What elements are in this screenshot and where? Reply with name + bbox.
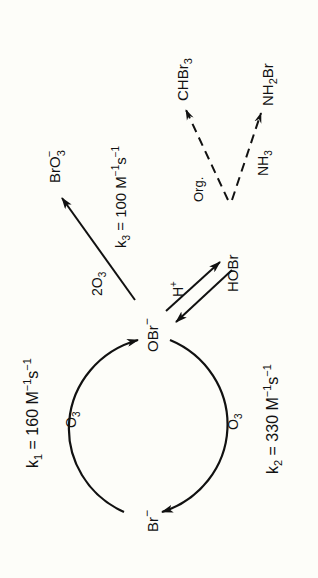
bromate-label: BrO3−	[43, 150, 67, 183]
rate-constant-k1: k1 = 160 M−1s−1	[21, 358, 44, 468]
rate-constant-k2: k2 = 330 M−1s−1	[261, 364, 284, 474]
organics-label: Org.	[191, 177, 206, 202]
rate-constant-k3: k3 = 100 M−1s−1	[110, 145, 132, 248]
arc-br-to-obr	[69, 340, 138, 512]
bromoform-label: CHBr3	[174, 58, 194, 101]
ozone-k1-label: O3	[63, 411, 82, 428]
bromide-label: Br−	[140, 510, 161, 532]
proton-label: H+	[168, 281, 186, 297]
arc-obr-to-br	[162, 340, 228, 512]
ozone-k3-label: 2O3	[89, 271, 108, 296]
hobr-label: HOBr	[224, 254, 241, 292]
reaction-diagram: OBr− Br− BrO3− HOBr CHBr3 NH2Br O3 O3 2O…	[0, 0, 318, 578]
ammonia-label: NH3	[255, 150, 274, 176]
hypobromite-label: OBr−	[140, 318, 161, 352]
bromamine-label: NH2Br	[259, 63, 279, 106]
